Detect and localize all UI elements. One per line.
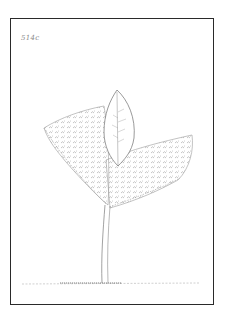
stem bbox=[102, 205, 110, 283]
left-cotyledon bbox=[44, 106, 109, 205]
seedling-drawing bbox=[0, 0, 228, 323]
ground-line bbox=[22, 283, 200, 284]
